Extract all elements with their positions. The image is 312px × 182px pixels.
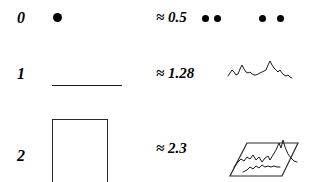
fractal-dimension-figure: 0 ≈ 0.5 1 ≈ 1.28 2 ≈ 2.3	[0, 0, 312, 182]
topological-dimension-label-0: 0	[17, 10, 25, 26]
point-shape	[53, 13, 62, 22]
square-shape	[52, 119, 108, 182]
dimension-row-2: 2 ≈ 2.3	[0, 110, 312, 182]
fractal-dimension-label-1: ≈ 1.28	[156, 66, 194, 81]
fractal-dimension-label-0: ≈ 0.5	[156, 10, 187, 25]
cantor-dust-dot	[202, 15, 209, 22]
line-segment-shape	[52, 85, 122, 86]
cantor-dust-dot	[277, 15, 284, 22]
dimension-row-0: 0 ≈ 0.5	[0, 0, 312, 46]
rough-curve-shape	[228, 59, 298, 85]
cantor-dust-dot	[259, 15, 266, 22]
topological-dimension-label-2: 2	[17, 148, 25, 164]
rough-surface-shape	[222, 116, 306, 180]
cantor-dust-dot	[214, 15, 221, 22]
topological-dimension-label-1: 1	[17, 66, 25, 82]
dimension-row-1: 1 ≈ 1.28	[0, 55, 312, 101]
fractal-dimension-label-2: ≈ 2.3	[156, 141, 187, 156]
